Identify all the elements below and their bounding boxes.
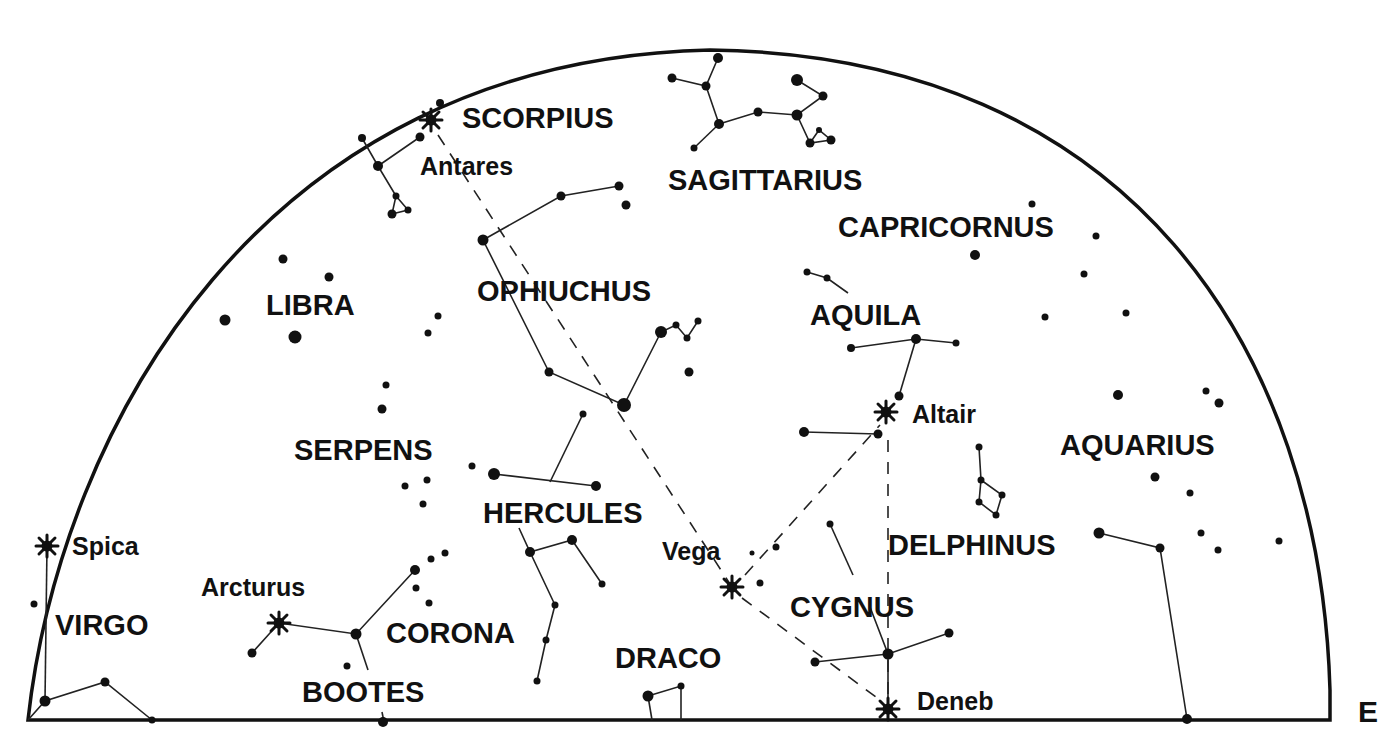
label-cygnus: CYGNUS <box>790 591 914 623</box>
horizon-dome <box>28 50 1330 720</box>
star-arcturus-icon <box>268 612 290 634</box>
label-spica: Spica <box>72 532 140 560</box>
label-sagittarius: SAGITTARIUS <box>668 164 862 196</box>
label-ophiuchus: OPHIUCHUS <box>477 275 651 307</box>
label-aquarius: AQUARIUS <box>1060 429 1215 461</box>
stars-faint <box>31 53 1283 727</box>
star-chart: SCORPIUS SAGITTARIUS CAPRICORNUS LIBRA O… <box>0 0 1378 752</box>
label-scorpius: SCORPIUS <box>462 102 613 134</box>
label-serpens: SERPENS <box>294 434 433 466</box>
star-antares-icon <box>420 109 442 131</box>
label-bootes: BOOTES <box>302 676 424 708</box>
constellation-lines <box>28 58 1187 722</box>
label-corona: CORONA <box>386 617 515 649</box>
constellation-labels: SCORPIUS SAGITTARIUS CAPRICORNUS LIBRA O… <box>55 102 1215 708</box>
compass-direction-east: E <box>1358 695 1378 728</box>
star-altair-icon <box>875 401 897 423</box>
label-arcturus: Arcturus <box>201 573 305 601</box>
label-vega: Vega <box>662 537 721 565</box>
label-hercules: HERCULES <box>483 497 643 529</box>
label-delphinus: DELPHINUS <box>888 529 1056 561</box>
star-vega-icon <box>721 576 743 598</box>
star-spica-icon <box>36 535 58 557</box>
label-draco: DRACO <box>615 642 721 674</box>
label-virgo: VIRGO <box>55 609 148 641</box>
label-deneb: Deneb <box>917 687 993 715</box>
label-aquila: AQUILA <box>810 299 921 331</box>
label-antares: Antares <box>420 152 513 180</box>
label-libra: LIBRA <box>266 289 355 321</box>
label-capricornus: CAPRICORNUS <box>838 211 1054 243</box>
star-deneb-icon <box>877 698 899 720</box>
label-altair: Altair <box>912 400 976 428</box>
